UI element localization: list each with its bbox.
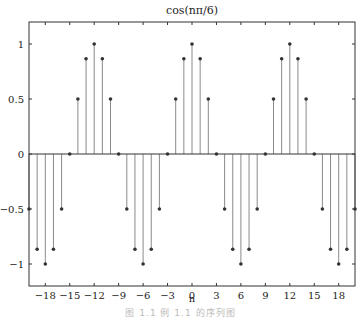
stem-marker	[255, 207, 259, 211]
stem-marker	[190, 42, 194, 46]
x-axis: −18−15−12−9−6−30369121518	[35, 22, 345, 301]
stem-marker	[68, 152, 72, 156]
y-tick-label: −0.5	[0, 204, 24, 215]
stem-marker	[329, 247, 333, 251]
stem-marker	[44, 262, 48, 266]
stem-marker	[60, 207, 64, 211]
stem-marker	[288, 42, 292, 46]
stem-marker	[149, 247, 153, 251]
y-tick-label: 0.5	[8, 94, 24, 105]
stem-marker	[231, 247, 235, 251]
x-axis-label: n	[189, 293, 196, 304]
stem-marker	[35, 247, 39, 251]
stem-marker	[321, 207, 325, 211]
figure-caption: 图 1.1 例 1.1 的序列图	[0, 306, 361, 319]
x-tick-label: 12	[283, 290, 296, 301]
stem-marker	[304, 97, 308, 101]
x-tick-label: 3	[213, 290, 219, 301]
x-tick-label: −6	[136, 290, 151, 301]
x-tick-label: −3	[160, 290, 175, 301]
x-tick-label: 15	[308, 290, 321, 301]
stem-marker	[133, 247, 137, 251]
stem-marker	[76, 97, 80, 101]
stem-marker	[84, 57, 88, 61]
stem-marker	[207, 97, 211, 101]
x-tick-label: 6	[238, 290, 244, 301]
stem-marker	[239, 262, 243, 266]
x-tick-label: 18	[332, 290, 345, 301]
stem-marker	[312, 152, 316, 156]
stem-marker	[117, 152, 121, 156]
y-tick-label: 1	[18, 39, 24, 50]
x-tick-label: −9	[111, 290, 126, 301]
x-tick-label: −12	[84, 290, 105, 301]
stem-marker	[182, 57, 186, 61]
stem-marker	[280, 57, 284, 61]
stem-marker	[272, 97, 276, 101]
chart-title: cos(nπ/6)	[166, 4, 218, 17]
stem-marker	[296, 57, 300, 61]
stem-marker	[166, 152, 170, 156]
stem-marker	[174, 97, 178, 101]
stem-marker	[337, 262, 341, 266]
stem-chart: cos(nπ/6) −18−15−12−9−6−30369121518 −1−0…	[0, 0, 361, 306]
y-tick-label: −1	[9, 259, 24, 270]
stem-marker	[223, 207, 227, 211]
stem-marker	[247, 247, 251, 251]
stem-marker	[125, 207, 129, 211]
stem-marker	[345, 247, 349, 251]
stem-marker	[215, 152, 219, 156]
stem-marker	[92, 42, 96, 46]
stem-marker	[52, 247, 56, 251]
x-tick-label: −18	[35, 290, 56, 301]
x-tick-label: −15	[59, 290, 80, 301]
stem-marker	[158, 207, 162, 211]
y-tick-label: 0	[18, 149, 24, 160]
x-tick-label: 9	[262, 290, 268, 301]
stem-marker	[198, 57, 202, 61]
stem-marker	[109, 97, 113, 101]
stem-marker	[264, 152, 268, 156]
stem-marker	[141, 262, 145, 266]
stem-marker	[101, 57, 105, 61]
plot-area	[27, 22, 357, 286]
